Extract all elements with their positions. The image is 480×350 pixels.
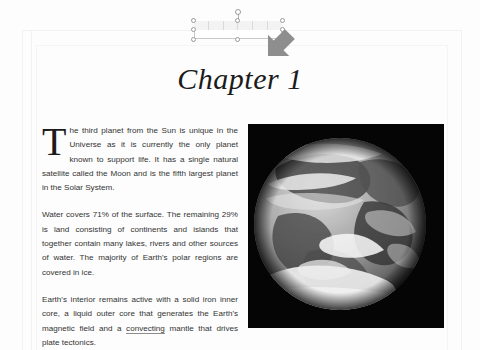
resize-handle-middle-right[interactable]: [280, 27, 285, 32]
rotation-handle[interactable]: [235, 9, 241, 15]
earth-image: [248, 124, 444, 328]
paragraph-2: Water covers 71% of the surface. The rem…: [42, 208, 238, 279]
earth-photograph-figure[interactable]: [248, 124, 444, 328]
paragraph-1-text: he third planet from the Sun is unique i…: [42, 126, 238, 192]
table-cell: [253, 21, 268, 30]
table-cell: [209, 21, 224, 30]
text-frame-top-guide: [36, 45, 448, 46]
table-cell: [238, 21, 253, 30]
drop-cap-letter: T: [42, 125, 69, 158]
resize-handle-bottom-left[interactable]: [191, 37, 196, 42]
resize-handle-bottom-right[interactable]: [280, 37, 285, 42]
resize-handle-top-right[interactable]: [280, 18, 285, 23]
resize-handle-top-left[interactable]: [191, 18, 196, 23]
resize-handle-bottom-center[interactable]: [235, 37, 240, 42]
document-canvas[interactable]: Chapter 1 The third planet from the Sun …: [0, 0, 480, 350]
paragraph-3: Earth's interior remains active with a s…: [42, 293, 238, 350]
chapter-heading: Chapter 1: [0, 62, 480, 96]
paragraph-1: The third planet from the Sun is unique …: [42, 124, 238, 195]
resize-handle-middle-left[interactable]: [191, 27, 196, 32]
table-cell: [194, 21, 209, 30]
paragraph-2-text: Water covers 71% of the surface. The rem…: [42, 210, 238, 276]
selected-table-shape[interactable]: [194, 21, 282, 39]
chapter-heading-text: Chapter 1: [177, 62, 302, 95]
misspelled-word[interactable]: convecting: [126, 324, 165, 334]
resize-handle-top-center[interactable]: [235, 18, 240, 23]
body-text-column[interactable]: The third planet from the Sun is unique …: [42, 124, 238, 350]
